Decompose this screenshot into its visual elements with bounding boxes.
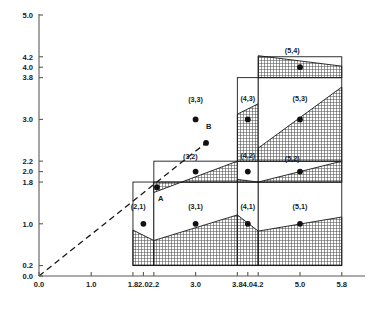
cell-point-label: (3,1)	[188, 202, 203, 211]
data-point	[245, 221, 251, 227]
cell-point-label: (5,4)	[285, 46, 300, 55]
y-tick-label: 1.0	[22, 220, 33, 229]
scatter-region-figure: 0.01.01.82.02.23.03.84.04.25.05.80.00.21…	[0, 0, 371, 309]
cell-point-label: (2,1)	[131, 202, 146, 211]
data-point	[297, 64, 303, 70]
data-point	[297, 117, 303, 123]
cell-point-label: (4,3)	[240, 94, 255, 103]
y-tick-label: 2.0	[22, 167, 33, 176]
data-point	[297, 221, 303, 227]
cell-point-label: (5,1)	[293, 202, 308, 211]
annotated-point-label: A	[158, 194, 164, 203]
annotated-point	[154, 184, 160, 190]
data-point	[245, 169, 251, 175]
cell-point-label: (4,2)	[240, 151, 255, 160]
cell-point-label: (4,1)	[240, 202, 255, 211]
data-point	[193, 221, 199, 227]
y-tick-label: 4.2	[22, 53, 33, 62]
y-tick-label: 2.2	[22, 157, 33, 166]
cell-point-label: (5,2)	[285, 154, 300, 163]
plot-canvas: 0.01.01.82.02.23.03.84.04.25.05.80.00.21…	[0, 0, 371, 309]
y-tick-label: 0.0	[22, 272, 33, 281]
x-tick-label: 3.8	[232, 280, 243, 289]
x-tick-label: 4.2	[253, 280, 264, 289]
x-tick-label: 2.2	[149, 280, 160, 289]
cell-point-label: (3,3)	[188, 95, 203, 104]
x-tick-label: 5.8	[336, 280, 347, 289]
x-tick-label: 1.0	[86, 280, 97, 289]
cell-point-label: (3,2)	[183, 152, 198, 161]
data-point	[193, 117, 199, 123]
cell-regions	[133, 56, 342, 266]
y-tick-label: 0.2	[22, 261, 33, 270]
annotated-point-label: B	[206, 122, 212, 131]
y-tick-label: 4.0	[22, 63, 33, 72]
annotated-point	[203, 140, 209, 146]
y-tick-label: 3.8	[22, 73, 33, 82]
data-point	[141, 221, 147, 227]
x-tick-label: 0.0	[34, 280, 45, 289]
cell-point-label: (5,3)	[293, 94, 308, 103]
x-tick-label: 3.0	[190, 280, 201, 289]
y-tick-label: 3.0	[22, 115, 33, 124]
x-tick-label: 4.0	[243, 280, 254, 289]
x-tick-label: 5.0	[295, 280, 306, 289]
data-point	[297, 169, 303, 175]
data-point	[245, 117, 251, 123]
y-tick-label: 1.8	[22, 178, 33, 187]
data-point	[193, 169, 199, 175]
y-tick-label: 5.0	[22, 11, 33, 20]
x-tick-label: 2.0	[138, 280, 149, 289]
x-tick-label: 1.8	[128, 280, 139, 289]
